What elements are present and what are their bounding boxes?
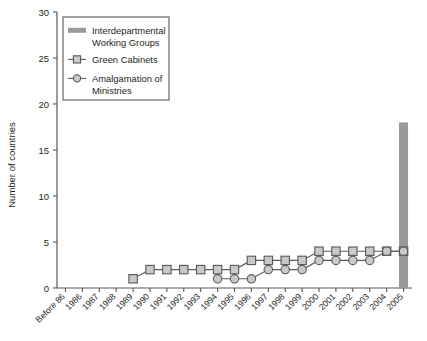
- x-tick-label: 1995: [215, 291, 236, 312]
- marker-green-cabinets: [163, 265, 171, 273]
- marker-green-cabinets: [349, 247, 357, 255]
- marker-amalgamation-of-ministries: [315, 256, 323, 264]
- marker-green-cabinets: [213, 265, 221, 273]
- chart-svg: Number of countries 051015202530 Before …: [0, 0, 427, 341]
- marker-amalgamation-of-ministries: [281, 265, 289, 273]
- x-tick-label: 2000: [300, 291, 321, 312]
- marker-green-cabinets: [146, 265, 154, 273]
- legend-label-line2: Working Groups: [92, 37, 160, 48]
- x-tick-label: 1988: [97, 291, 118, 312]
- marker-green-cabinets: [180, 265, 188, 273]
- chart-container: Number of countries 051015202530 Before …: [0, 0, 427, 341]
- marker-amalgamation-of-ministries: [230, 275, 238, 283]
- y-axis-label-group: Number of countries: [6, 122, 17, 208]
- marker-amalgamation-of-ministries: [332, 256, 340, 264]
- x-tick-label: 1992: [165, 291, 186, 312]
- marker-green-cabinets: [332, 247, 340, 255]
- x-tick-label: Before 86: [33, 291, 67, 325]
- x-tick-label: 1996: [232, 291, 253, 312]
- legend-swatch-interdepartmental-working-groups: [68, 28, 86, 33]
- marker-green-cabinets: [230, 265, 238, 273]
- x-tick-label: 1991: [148, 291, 169, 312]
- x-tick-label: 1994: [198, 291, 219, 312]
- bar-series-group: [399, 122, 408, 288]
- y-tick-label: 15: [38, 145, 49, 156]
- y-tick-label: 25: [38, 53, 49, 64]
- chart-legend: InterdepartmentalWorking GroupsGreen Cab…: [63, 17, 169, 100]
- x-tick-label: 1989: [114, 291, 135, 312]
- marker-amalgamation-of-ministries: [213, 275, 221, 283]
- line-series-group: [129, 247, 408, 283]
- marker-amalgamation-of-ministries: [298, 265, 306, 273]
- marker-amalgamation-of-ministries: [382, 247, 390, 255]
- x-tick-label: 1987: [80, 291, 101, 312]
- x-tick-label: 1990: [131, 291, 152, 312]
- marker-green-cabinets: [247, 256, 255, 264]
- legend-marker-amalgamation-of-ministries: [73, 75, 80, 82]
- y-tick-label: 5: [44, 237, 49, 248]
- marker-green-cabinets: [315, 247, 323, 255]
- marker-green-cabinets: [196, 265, 204, 273]
- y-tick-label: 10: [38, 191, 49, 202]
- legend-marker-green-cabinets: [73, 56, 80, 63]
- x-tick-label: 1986: [63, 291, 84, 312]
- legend-label-line1: Green Cabinets: [92, 54, 158, 65]
- marker-amalgamation-of-ministries: [366, 256, 374, 264]
- x-tick-label: 2002: [334, 291, 355, 312]
- y-tick-label: 0: [44, 283, 49, 294]
- x-axis-ticks: Before 861986198719881989199019911992199…: [33, 288, 405, 325]
- x-tick-label: 2001: [317, 291, 338, 312]
- marker-amalgamation-of-ministries: [247, 275, 255, 283]
- x-tick-label: 2005: [384, 291, 405, 312]
- x-tick-label: 2004: [367, 291, 388, 312]
- x-tick-label: 1993: [182, 291, 203, 312]
- y-axis-label: Number of countries: [6, 122, 17, 208]
- legend-label-line1: Interdepartmental: [92, 25, 165, 36]
- bar-interdepartmental-working-groups: [399, 122, 408, 288]
- x-tick-label: 2003: [351, 291, 372, 312]
- marker-amalgamation-of-ministries: [264, 265, 272, 273]
- y-axis-ticks: 051015202530: [38, 7, 57, 294]
- x-tick-label: 1998: [266, 291, 287, 312]
- x-tick-label: 1999: [283, 291, 304, 312]
- marker-green-cabinets: [264, 256, 272, 264]
- y-tick-label: 30: [38, 7, 49, 18]
- x-tick-label: 1997: [249, 291, 270, 312]
- y-tick-label: 20: [38, 99, 49, 110]
- legend-label-line1: Amalgamation of: [92, 73, 163, 84]
- marker-green-cabinets: [366, 247, 374, 255]
- marker-green-cabinets: [281, 256, 289, 264]
- marker-green-cabinets: [129, 275, 137, 283]
- legend-label-line2: Ministries: [92, 85, 132, 96]
- marker-amalgamation-of-ministries: [349, 256, 357, 264]
- marker-amalgamation-of-ministries: [399, 247, 407, 255]
- marker-green-cabinets: [298, 256, 306, 264]
